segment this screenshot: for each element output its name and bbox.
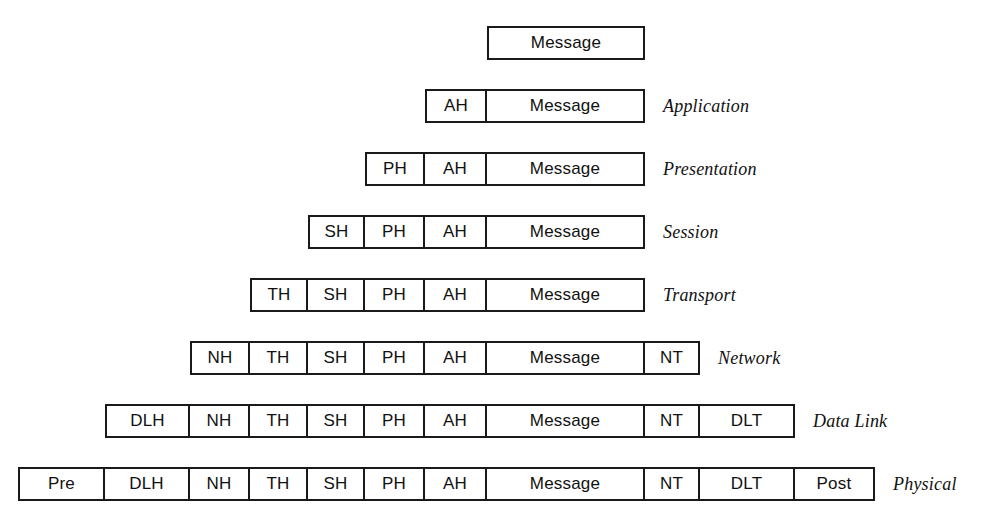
pdu-row: AHMessageApplication <box>0 89 997 123</box>
pdu-cell-pre: Pre <box>18 467 105 501</box>
pdu-cell-message: Message <box>487 404 645 438</box>
pdu-cell-ph: PH <box>365 215 425 249</box>
pdu-cell-th: TH <box>250 467 308 501</box>
pdu-cell-sh: SH <box>308 278 365 312</box>
pdu-cell-th: TH <box>250 341 308 375</box>
pdu-cell-message: Message <box>487 26 645 60</box>
pdu-row: DLHNHTHSHPHAHMessageNTDLTData Link <box>0 404 997 438</box>
layer-label-network: Network <box>718 341 780 375</box>
layer-label-presentation: Presentation <box>663 152 757 186</box>
layer-label-session: Session <box>663 215 718 249</box>
pdu-cell-ph: PH <box>365 467 425 501</box>
pdu-cell-sh: SH <box>308 215 365 249</box>
pdu-cell-dlt: DLT <box>700 467 795 501</box>
layer-label-application: Application <box>663 89 749 123</box>
pdu-cell-nh: NH <box>190 341 250 375</box>
pdu-cell-post: Post <box>795 467 875 501</box>
layer-label-transport: Transport <box>663 278 736 312</box>
pdu-cell-ah: AH <box>425 404 487 438</box>
pdu-cell-th: TH <box>250 404 308 438</box>
pdu-cell-ah: AH <box>425 215 487 249</box>
pdu-cell-message: Message <box>487 152 645 186</box>
pdu-cell-ph: PH <box>365 341 425 375</box>
pdu-cell-dlh: DLH <box>105 404 190 438</box>
pdu-cell-sh: SH <box>308 467 365 501</box>
pdu-cell-th: TH <box>250 278 308 312</box>
pdu-cell-message: Message <box>487 89 645 123</box>
pdu-row: PreDLHNHTHSHPHAHMessageNTDLTPostPhysical <box>0 467 997 501</box>
pdu-cell-ah: AH <box>425 278 487 312</box>
pdu-cell-ph: PH <box>365 278 425 312</box>
pdu-cell-sh: SH <box>308 404 365 438</box>
pdu-cell-ph: PH <box>365 404 425 438</box>
pdu-cell-message: Message <box>487 341 645 375</box>
pdu-cell-nt: NT <box>645 341 700 375</box>
pdu-row: NHTHSHPHAHMessageNTNetwork <box>0 341 997 375</box>
pdu-cell-nt: NT <box>645 404 700 438</box>
pdu-cell-nh: NH <box>190 404 250 438</box>
pdu-cell-message: Message <box>487 467 645 501</box>
pdu-cell-sh: SH <box>308 341 365 375</box>
encapsulation-diagram: MessageAHMessageApplicationPHAHMessagePr… <box>0 0 997 527</box>
layer-label-data-link: Data Link <box>813 404 887 438</box>
pdu-cell-ph: PH <box>365 152 425 186</box>
pdu-cell-message: Message <box>487 278 645 312</box>
pdu-cell-ah: AH <box>425 467 487 501</box>
pdu-cell-ah: AH <box>425 152 487 186</box>
pdu-row: SHPHAHMessageSession <box>0 215 997 249</box>
pdu-cell-nh: NH <box>190 467 250 501</box>
pdu-row: THSHPHAHMessageTransport <box>0 278 997 312</box>
pdu-cell-dlh: DLH <box>105 467 190 501</box>
pdu-cell-ah: AH <box>425 89 487 123</box>
pdu-cell-ah: AH <box>425 341 487 375</box>
layer-label-physical: Physical <box>893 467 957 501</box>
pdu-cell-message: Message <box>487 215 645 249</box>
pdu-cell-dlt: DLT <box>700 404 795 438</box>
pdu-row: PHAHMessagePresentation <box>0 152 997 186</box>
pdu-row: Message <box>0 26 997 60</box>
pdu-cell-nt: NT <box>645 467 700 501</box>
